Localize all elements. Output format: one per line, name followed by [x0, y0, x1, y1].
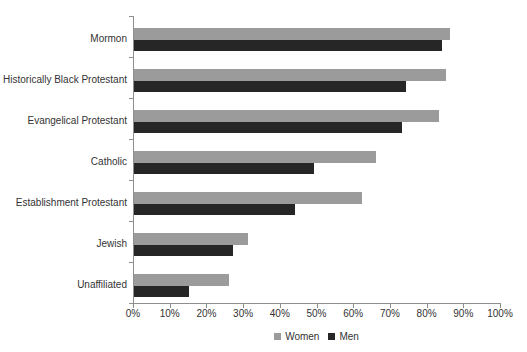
x-axis-tick-label: 60%	[343, 308, 363, 319]
bar-women-3	[134, 151, 376, 163]
bar-men-2	[134, 122, 402, 134]
x-axis-tick-label: 20%	[196, 308, 216, 319]
bar-women-5	[134, 233, 248, 245]
legend-swatch-women	[274, 333, 281, 340]
bar-women-6	[134, 274, 229, 286]
y-axis-tick	[129, 139, 133, 140]
x-axis-tick-label: 70%	[380, 308, 400, 319]
legend-label: Women	[285, 331, 319, 342]
x-axis-tick-label: 90%	[453, 308, 473, 319]
category-label: Mormon	[0, 32, 127, 45]
category-label: Historically Black Protestant	[0, 73, 127, 86]
legend-entry-men: Men	[328, 331, 358, 342]
bar-chart: WomenMen MormonHistorically Black Protes…	[0, 0, 527, 352]
bar-men-5	[134, 245, 233, 257]
bar-men-1	[134, 81, 406, 93]
y-axis-tick	[129, 180, 133, 181]
x-axis-tick-label: 50%	[306, 308, 326, 319]
bar-women-0	[134, 28, 450, 40]
x-axis-tick-label: 40%	[270, 308, 290, 319]
legend-swatch-men	[328, 333, 335, 340]
category-label: Establishment Protestant	[0, 196, 127, 209]
bar-men-0	[134, 40, 442, 52]
legend: WomenMen	[133, 331, 500, 342]
category-label: Evangelical Protestant	[0, 114, 127, 127]
bar-women-1	[134, 69, 446, 81]
category-label: Jewish	[0, 237, 127, 250]
y-axis-tick	[129, 262, 133, 263]
x-axis-tick-label: 0%	[126, 308, 140, 319]
y-axis-tick	[129, 98, 133, 99]
x-axis-tick-label: 30%	[233, 308, 253, 319]
bar-women-4	[134, 192, 362, 204]
category-label: Unaffiliated	[0, 278, 127, 291]
bar-men-4	[134, 204, 295, 216]
y-axis-tick	[129, 57, 133, 58]
bar-men-3	[134, 163, 314, 175]
x-axis-tick-label: 80%	[417, 308, 437, 319]
x-axis-tick-label: 10%	[160, 308, 180, 319]
y-axis-tick	[129, 221, 133, 222]
y-axis-tick	[129, 16, 133, 17]
legend-label: Men	[339, 331, 358, 342]
category-label: Catholic	[0, 155, 127, 168]
bar-men-6	[134, 286, 189, 298]
x-axis-tick-label: 100%	[487, 308, 513, 319]
plot-area	[133, 16, 501, 304]
legend-entry-women: Women	[274, 331, 319, 342]
bar-women-2	[134, 110, 439, 122]
